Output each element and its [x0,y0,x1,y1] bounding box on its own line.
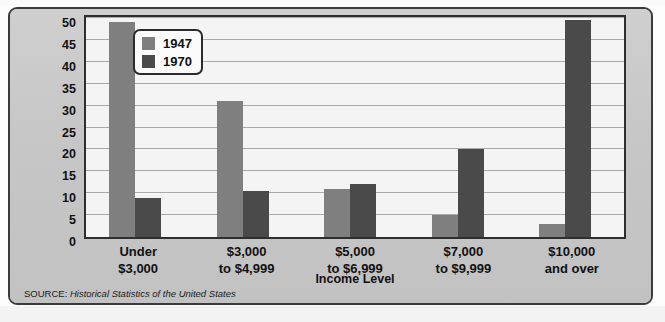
bar-1947--5-000-to-6-999 [324,189,350,237]
bar-1947--3-000-to-4-999 [217,101,243,237]
cut-off-title-strip [0,0,665,7]
source-body: Historical Statistics of the United Stat… [70,288,236,299]
bar-group [516,17,624,237]
y-axis-title-wrap: Percentage of families [10,16,28,236]
y-tick-label: 0 [69,236,76,248]
y-tick-label: 50 [62,17,76,29]
bar-1947--7-000-to-9-999 [432,215,458,237]
x-category-line1: $10,000 [548,244,595,259]
legend-label-1970: 1970 [163,55,192,68]
y-tick-label: 25 [62,127,76,139]
legend-entry-1970: 1970 [142,53,192,69]
y-tick-label: 15 [62,170,76,182]
bar-1947--10-000-and-over [539,224,565,237]
bar-1970--3-000-to-4-999 [243,191,269,237]
bar-group [194,17,302,237]
page-bottom-margin [0,306,665,322]
x-category-line1: $5,000 [335,244,375,259]
bar-1970--10-000-and-over [565,20,591,237]
y-tick-label: 5 [69,214,76,226]
bar-1970--7-000-to-9-999 [458,149,484,237]
plot-area: 1947 1970 [84,15,626,239]
y-tick-label: 10 [62,192,76,204]
x-category-line1: Under [119,244,157,259]
y-tick-label: 45 [62,39,76,51]
bar-1947-under-3-000 [109,22,135,237]
legend-swatch-1947 [142,37,155,50]
y-tick-label: 20 [62,148,76,160]
source-prefix: SOURCE: [24,288,67,299]
y-tick-label: 40 [62,61,76,73]
source-note: SOURCE: Historical Statistics of the Uni… [24,288,236,299]
bar-group [409,17,517,237]
y-tick-label: 30 [62,105,76,117]
y-tick-label: 35 [62,83,76,95]
bar-1970--5-000-to-6-999 [350,184,376,237]
chart-screenshot: Percentage of families 50454035302520151… [0,0,665,322]
legend-label-1947: 1947 [163,37,192,50]
x-category-line1: $3,000 [227,244,267,259]
legend-swatch-1970 [142,55,155,68]
y-axis-tick-labels: 50454035302520151050 [30,14,80,238]
x-category-line1: $7,000 [444,244,484,259]
bar-1970-under-3-000 [135,198,161,237]
x-axis-title: Income Level [84,272,626,286]
legend: 1947 1970 [133,29,203,75]
legend-entry-1947: 1947 [142,35,192,51]
bar-group [301,17,409,237]
